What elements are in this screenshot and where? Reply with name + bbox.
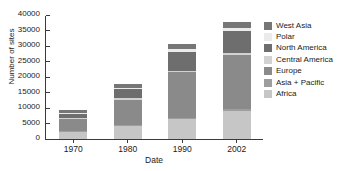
bar-segment <box>59 132 87 139</box>
legend-swatch <box>264 67 272 75</box>
bar-1980 <box>114 84 142 139</box>
bar-segment <box>59 131 87 132</box>
x-axis-title: Date <box>45 155 263 165</box>
bar-segment <box>168 119 196 139</box>
bar-segment <box>114 98 142 99</box>
legend-item: Asia + Pacific <box>264 77 350 88</box>
legend-item: North America <box>264 43 350 54</box>
bar-segment <box>114 125 142 126</box>
bar-2002 <box>223 22 251 139</box>
y-tick-label: 35000 <box>18 25 40 34</box>
legend-swatch <box>264 33 272 41</box>
y-tick-mark <box>46 61 50 62</box>
legend-item: Central America <box>264 54 350 65</box>
bar-segment <box>168 49 196 52</box>
bar-segment <box>223 111 251 139</box>
y-tick-label: 10000 <box>18 102 40 111</box>
legend-swatch <box>264 90 272 98</box>
y-tick-mark <box>46 92 50 93</box>
x-tick-label: 1990 <box>160 144 204 154</box>
bar-segment <box>59 114 87 118</box>
legend-label: Africa <box>276 90 296 98</box>
legend-swatch <box>264 44 272 52</box>
legend-item: Europe <box>264 66 350 77</box>
x-tick-mark <box>127 139 128 143</box>
bar-segment <box>168 72 196 117</box>
chart-legend: West AsiaPolarNorth AmericaCentral Ameri… <box>264 20 350 100</box>
y-tick-label: 30000 <box>18 40 40 49</box>
legend-item: West Asia <box>264 20 350 31</box>
bar-segment <box>59 110 87 113</box>
legend-label: Polar <box>276 33 295 41</box>
bar-segment <box>114 126 142 139</box>
bar-segment <box>59 113 87 114</box>
bar-segment <box>223 31 251 53</box>
x-tick-label: 1980 <box>106 144 150 154</box>
bar-segment <box>223 53 251 55</box>
y-tick-mark <box>46 108 50 109</box>
bar-segment <box>223 22 251 28</box>
legend-label: Central America <box>276 56 333 64</box>
bar-segment <box>223 55 251 109</box>
legend-swatch <box>264 22 272 30</box>
y-tick-mark <box>46 30 50 31</box>
x-tick-mark <box>182 139 183 143</box>
legend-label: North America <box>276 44 327 52</box>
y-tick-mark <box>46 77 50 78</box>
y-axis-title: Number of sites <box>7 12 16 102</box>
y-tick-label: 0 <box>36 133 40 142</box>
bar-segment <box>168 52 196 70</box>
x-tick-label: 2002 <box>215 144 259 154</box>
y-tick-label: 25000 <box>18 56 40 65</box>
y-tick-label: 20000 <box>18 71 40 80</box>
bar-segment <box>168 44 196 49</box>
x-tick-mark <box>73 139 74 143</box>
bar-segment <box>114 84 142 88</box>
legend-label: Asia + Pacific <box>276 79 324 87</box>
x-tick-label: 1970 <box>51 144 95 154</box>
plot-area: 0500010000150002000025000300003500040000… <box>45 16 263 140</box>
legend-label: West Asia <box>276 22 311 30</box>
bar-segment <box>59 119 87 131</box>
y-tick-mark <box>46 123 50 124</box>
bar-segment <box>168 71 196 73</box>
bar-segment <box>114 88 142 90</box>
bar-1970 <box>59 110 87 139</box>
legend-item: Polar <box>264 31 350 42</box>
y-tick-mark <box>46 15 50 16</box>
legend-swatch <box>264 79 272 87</box>
stacked-bar-chart: Number of sites 050001000015000200002500… <box>0 0 351 171</box>
x-tick-mark <box>236 139 237 143</box>
bar-segment <box>114 100 142 126</box>
bar-1990 <box>168 44 196 139</box>
bar-segment <box>223 109 251 111</box>
y-tick-label: 15000 <box>18 87 40 96</box>
y-tick-mark <box>46 139 50 140</box>
legend-label: Europe <box>276 67 302 75</box>
legend-item: Africa <box>264 88 350 99</box>
y-tick-label: 5000 <box>22 118 40 127</box>
bar-segment <box>59 118 87 119</box>
bar-segment <box>114 89 142 98</box>
y-tick-mark <box>46 46 50 47</box>
legend-swatch <box>264 56 272 64</box>
bar-segment <box>168 118 196 120</box>
bar-segment <box>223 28 251 31</box>
y-tick-label: 40000 <box>18 9 40 18</box>
